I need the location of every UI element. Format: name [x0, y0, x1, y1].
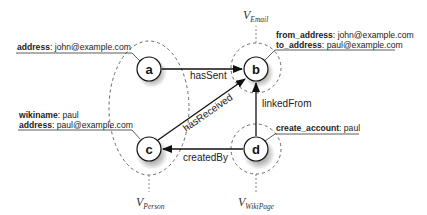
leader-c	[18, 130, 140, 139]
node-d: d	[243, 137, 275, 170]
edge-label-createdBy: createdBy	[183, 152, 228, 163]
attributes-c: wikiname: paul address: paul@example.com	[18, 110, 133, 130]
attributes-b: from_address: john@example.com to_addres…	[276, 30, 414, 50]
attributes-a: address: john@example.com	[17, 42, 131, 52]
attr-d-create-account: create_account: paul	[276, 123, 360, 133]
group-person-label: VPerson	[136, 195, 165, 211]
attr-c-address: address: paul@example.com	[19, 120, 133, 130]
node-c: c	[136, 137, 168, 170]
attr-b-from-address: from_address: john@example.com	[276, 30, 414, 40]
property-graph-diagram: VPerson VEmail VWikiPage address: john@e…	[0, 0, 427, 215]
group-wikipage-label: VWikiPage	[238, 195, 275, 211]
node-d-label: d	[252, 142, 260, 157]
attr-a-address: address: john@example.com	[17, 42, 131, 52]
attr-c-wikiname: wikiname: paul	[18, 110, 79, 120]
group-email-label: VEmail	[243, 8, 268, 24]
attr-b-to-address: to_address: paul@example.com	[276, 40, 403, 50]
node-c-label: c	[145, 142, 152, 157]
edge-label-linkedFrom: linkedFrom	[262, 98, 311, 109]
attributes-d: create_account: paul	[276, 123, 360, 133]
node-a: a	[137, 57, 167, 88]
node-a-label: a	[145, 62, 153, 77]
node-b-label: b	[252, 62, 260, 77]
leader-b	[265, 50, 395, 60]
edge-label-hasSent: hasSent	[190, 70, 227, 81]
node-b: b	[244, 57, 274, 88]
leader-a	[16, 53, 140, 61]
